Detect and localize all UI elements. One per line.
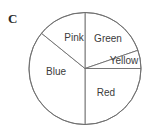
pie-slice-label-pink: Pink — [64, 33, 83, 43]
pie-slice-label-yellow: Yellow — [110, 56, 139, 66]
pie-chart-figure: C GreenYellowRedBluePink — [0, 0, 153, 131]
pie-slice-label-red: Red — [97, 88, 115, 98]
pie-slice-label-green: Green — [94, 34, 122, 44]
pie-slice-label-blue: Blue — [46, 67, 66, 77]
